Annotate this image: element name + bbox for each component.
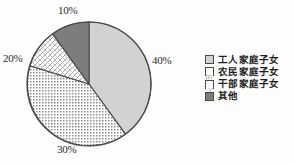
legend-label-ganbu: 干部家庭子女 bbox=[218, 79, 280, 89]
legend-label-qita: 其他 bbox=[218, 91, 239, 101]
legend-item-ganbu[interactable]: 干部家庭子女 bbox=[205, 78, 294, 90]
legend-swatch-solid-dark-icon bbox=[205, 92, 214, 101]
chart-legend: 工人家庭子女 农民家庭子女 干部家庭子女 其他 bbox=[205, 54, 294, 103]
legend-swatch-dotted-icon bbox=[205, 67, 214, 76]
slice-label-10: 10% bbox=[58, 4, 78, 16]
legend-item-nongmin[interactable]: 农民家庭子女 bbox=[205, 66, 294, 78]
legend-item-qita[interactable]: 其他 bbox=[205, 91, 294, 103]
slice-label-30: 30% bbox=[57, 143, 77, 155]
legend-swatch-solid-light-icon bbox=[205, 55, 214, 64]
legend-swatch-hatch-icon bbox=[205, 80, 214, 89]
legend-label-gongren: 工人家庭子女 bbox=[218, 55, 280, 65]
legend-label-nongmin: 农民家庭子女 bbox=[218, 67, 280, 77]
slice-label-20: 20% bbox=[3, 52, 23, 64]
legend-item-gongren[interactable]: 工人家庭子女 bbox=[205, 54, 294, 66]
slice-label-40: 40% bbox=[152, 54, 172, 66]
